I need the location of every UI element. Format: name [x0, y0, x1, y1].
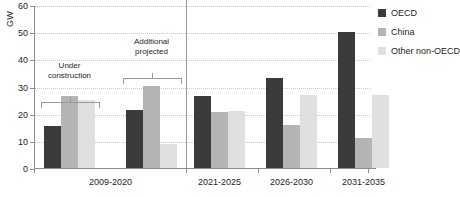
- bar-other: [372, 95, 389, 168]
- plot-area: 0102030405060 2009-20202021-20252026-203…: [34, 6, 370, 169]
- y-tick-mark: [30, 6, 34, 7]
- bar-china: [283, 125, 300, 168]
- y-tick-mark: [30, 115, 34, 116]
- bar-other: [78, 100, 95, 168]
- x-tick-label: 2031-2035: [342, 177, 385, 187]
- x-tick-label: 2026-2030: [270, 177, 313, 187]
- bar-china: [355, 138, 372, 168]
- legend-item: OECD: [378, 8, 460, 18]
- legend-swatch-icon: [378, 28, 386, 36]
- x-tick-mark: [258, 169, 259, 173]
- period-separator: [186, 0, 187, 168]
- bar-china: [211, 112, 228, 168]
- bar-other: [300, 95, 317, 168]
- y-tick-label: 20: [18, 110, 28, 120]
- bar-oecd: [126, 110, 143, 168]
- legend-label: OECD: [391, 8, 417, 18]
- gridline: [35, 88, 370, 89]
- x-tick-mark: [186, 169, 187, 173]
- annotation-bracket-stem: [70, 97, 71, 102]
- y-tick-mark: [30, 142, 34, 143]
- annotation-bracket: [41, 102, 100, 108]
- chart-legend: OECDChinaOther non-OECD: [378, 8, 460, 65]
- y-tick-label: 30: [18, 83, 28, 93]
- x-tick-mark: [330, 169, 331, 173]
- bar-oecd: [44, 126, 61, 168]
- annotation-label: Under construction: [48, 61, 91, 81]
- x-axis-line: [34, 168, 376, 169]
- annotation-label: Additional projected: [134, 37, 169, 57]
- x-tick-label: 2021-2025: [198, 177, 241, 187]
- y-axis-title: GW: [5, 2, 15, 36]
- bar-other: [160, 144, 177, 168]
- annotation-bracket: [123, 78, 182, 84]
- y-tick-mark: [30, 88, 34, 89]
- legend-swatch-icon: [378, 47, 386, 55]
- y-tick-mark: [30, 60, 34, 61]
- gridline: [35, 6, 370, 7]
- x-tick-mark: [34, 169, 35, 173]
- bar-oecd: [266, 78, 283, 168]
- bar-china: [143, 86, 160, 168]
- y-tick-label: 60: [18, 1, 28, 11]
- legend-label: China: [391, 27, 415, 37]
- bar-oecd: [194, 96, 211, 168]
- annotation-bracket-stem: [152, 73, 153, 78]
- legend-label: Other non-OECD: [391, 46, 460, 56]
- legend-item: Other non-OECD: [378, 46, 460, 56]
- legend-swatch-icon: [378, 9, 386, 17]
- x-tick-mark: [368, 169, 369, 173]
- y-tick-label: 40: [18, 55, 28, 65]
- legend-item: China: [378, 27, 460, 37]
- x-tick-label: 2009-2020: [89, 177, 132, 187]
- y-tick-label: 0: [23, 164, 28, 174]
- y-tick-label: 50: [18, 28, 28, 38]
- y-tick-mark: [30, 33, 34, 34]
- gridline: [35, 33, 370, 34]
- bar-oecd: [338, 32, 355, 168]
- y-tick-label: 10: [18, 137, 28, 147]
- bar-other: [228, 111, 245, 168]
